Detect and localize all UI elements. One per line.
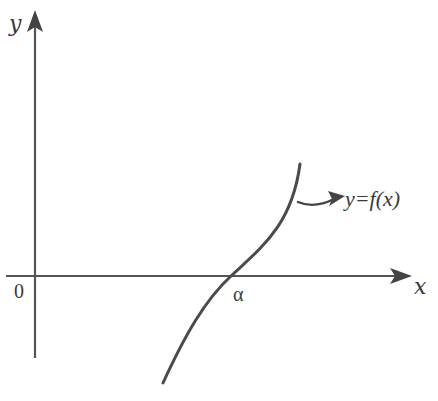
function-label: y=f(x) — [345, 188, 400, 210]
x-axis — [6, 268, 412, 284]
curve-label-pointer — [298, 191, 345, 206]
origin-label: 0 — [14, 281, 24, 301]
y-axis-label: y — [9, 13, 21, 35]
x-axis-label: x — [414, 276, 426, 298]
function-curve — [163, 164, 300, 383]
root-alpha-label: α — [233, 284, 243, 304]
pointer-arrowhead-icon — [328, 191, 345, 206]
y-axis — [27, 10, 43, 358]
